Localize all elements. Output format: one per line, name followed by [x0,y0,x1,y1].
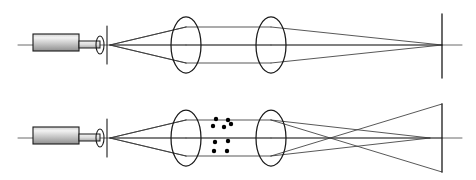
optical-diagram-figure [0,0,476,180]
scattering-particle [229,122,233,126]
ray-scattered-up [271,104,442,156]
laser-source [33,34,79,51]
scattering-particle [212,149,216,153]
scattering-particle [214,117,218,121]
scattering-particle [222,125,226,129]
ray-converging-lower [271,45,442,63]
scattering-particle [225,149,229,153]
scattering-particle [226,118,230,122]
ray-diverging-lower [110,138,186,156]
optics-schematic-canvas [0,0,476,180]
scattering-particle [213,140,217,144]
bottom-optical-panel [18,104,462,172]
laser-snout [79,134,100,141]
top-optical-panel [18,14,462,78]
ray-diverging-upper [110,27,186,45]
laser-snout [79,41,100,48]
scattering-particle [211,124,215,128]
ray-diverging-lower [110,45,186,63]
ray-converging-upper [271,27,442,45]
ray-converging-upper [271,120,430,138]
ray-scattered-down [271,120,442,172]
scattering-particle [226,139,230,143]
ray-diverging-upper [110,120,186,138]
ray-converging-lower [271,138,430,156]
laser-source [33,127,79,144]
